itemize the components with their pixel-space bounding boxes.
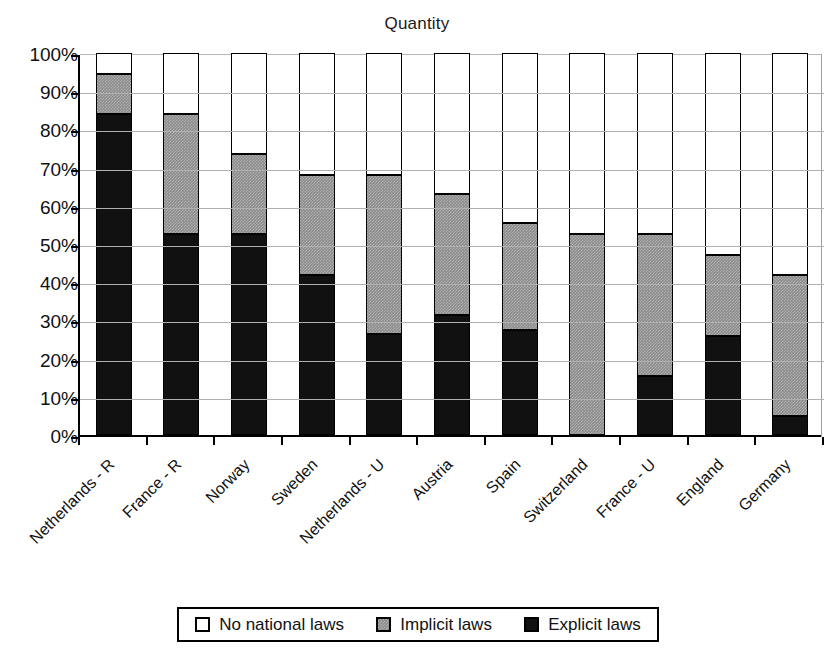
bar-group[interactable] — [231, 53, 267, 435]
y-axis-tick-label: 20% — [10, 351, 78, 370]
plot-area — [78, 55, 822, 437]
gridline — [80, 93, 824, 94]
bar-segment-implicit[interactable] — [366, 175, 402, 334]
bar-segment-none[interactable] — [163, 53, 199, 114]
y-axis-tick-mark — [71, 399, 78, 401]
chart-legend: No national lawsImplicit lawsExplicit la… — [177, 607, 659, 642]
bar-segment-explicit[interactable] — [637, 376, 673, 435]
gridline — [80, 208, 824, 209]
bar-segment-implicit[interactable] — [502, 223, 538, 330]
gridline — [80, 170, 824, 171]
legend-swatch-implicit — [376, 617, 391, 632]
bar-segment-none[interactable] — [96, 53, 132, 74]
bar-group[interactable] — [96, 53, 132, 435]
chart-root: Quantity 100%90%80%70%60%50%40%30%20%10%… — [0, 0, 834, 666]
legend-label: Implicit laws — [400, 615, 492, 635]
legend-swatch-none — [195, 617, 210, 632]
bar-segment-implicit[interactable] — [299, 175, 335, 274]
x-axis-tick-mark — [213, 437, 215, 445]
gridline — [80, 322, 824, 323]
y-axis-tick-label: 30% — [10, 312, 78, 331]
bar-segment-explicit[interactable] — [366, 334, 402, 435]
y-axis-tick-label: 50% — [10, 236, 78, 255]
bar-group[interactable] — [772, 53, 808, 435]
bar-segment-explicit[interactable] — [96, 114, 132, 435]
x-axis-tick-mark — [484, 437, 486, 445]
bar-group[interactable] — [705, 53, 741, 435]
bar-segment-implicit[interactable] — [434, 194, 470, 314]
bar-group[interactable] — [163, 53, 199, 435]
gridline — [80, 131, 824, 132]
x-axis-label: Germany — [640, 456, 794, 610]
bar-segment-none[interactable] — [502, 53, 538, 223]
bar-segment-implicit[interactable] — [569, 234, 605, 435]
x-axis-tick-mark — [349, 437, 351, 445]
bar-segment-explicit[interactable] — [502, 330, 538, 435]
bar-segment-implicit[interactable] — [705, 255, 741, 335]
bars-container — [80, 53, 824, 435]
bar-segment-implicit[interactable] — [637, 234, 673, 375]
bar-segment-none[interactable] — [231, 53, 267, 154]
x-axis-tick-mark — [687, 437, 689, 445]
y-axis-tick-label: 10% — [10, 389, 78, 408]
x-axis-tick-mark — [754, 437, 756, 445]
y-axis-tick-mark — [71, 131, 78, 133]
bar-segment-explicit[interactable] — [772, 416, 808, 435]
legend-label: No national laws — [219, 615, 344, 635]
bar-segment-explicit[interactable] — [434, 315, 470, 435]
y-axis-tick-label: 80% — [10, 121, 78, 140]
x-axis-tick-mark — [146, 437, 148, 445]
bar-segment-explicit[interactable] — [163, 234, 199, 435]
bar-segment-none[interactable] — [705, 53, 741, 255]
y-axis-tick-label: 40% — [10, 274, 78, 293]
y-axis-tick-mark — [71, 322, 78, 324]
legend-item[interactable]: No national laws — [195, 615, 344, 635]
bar-segment-explicit[interactable] — [231, 234, 267, 435]
bar-group[interactable] — [502, 53, 538, 435]
y-axis-tick-mark — [71, 55, 78, 57]
y-axis-tick-mark — [71, 284, 78, 286]
bar-segment-none[interactable] — [434, 53, 470, 194]
bar-segment-none[interactable] — [772, 53, 808, 275]
bar-group[interactable] — [299, 53, 335, 435]
bar-group[interactable] — [434, 53, 470, 435]
gridline — [80, 399, 824, 400]
legend-item[interactable]: Implicit laws — [376, 615, 492, 635]
x-axis-tick-mark — [551, 437, 553, 445]
y-axis-tick-mark — [71, 93, 78, 95]
y-axis: 100%90%80%70%60%50%40%30%20%10%0% — [0, 55, 78, 437]
legend-label: Explicit laws — [548, 615, 641, 635]
x-axis-tick-mark — [416, 437, 418, 445]
y-axis-tick-label: 60% — [10, 198, 78, 217]
y-axis-tick-label: 100% — [10, 45, 78, 64]
y-axis-tick-mark — [71, 170, 78, 172]
x-axis-tick-mark — [619, 437, 621, 445]
x-axis-tick-mark — [281, 437, 283, 445]
gridline — [80, 361, 824, 362]
legend-swatch-explicit — [524, 617, 539, 632]
x-axis-tick-mark — [822, 437, 824, 445]
bar-segment-none[interactable] — [299, 53, 335, 175]
x-axis-tick-mark — [78, 437, 80, 445]
y-axis-tick-label: 70% — [10, 160, 78, 179]
bar-group[interactable] — [366, 53, 402, 435]
y-axis-tick-mark — [71, 437, 78, 439]
legend-item[interactable]: Explicit laws — [524, 615, 641, 635]
bar-segment-none[interactable] — [366, 53, 402, 175]
y-axis-tick-mark — [71, 246, 78, 248]
y-axis-tick-mark — [71, 208, 78, 210]
gridline — [80, 246, 824, 247]
bar-segment-explicit[interactable] — [299, 275, 335, 435]
y-axis-tick-label: 0% — [10, 427, 78, 446]
y-axis-tick-mark — [71, 361, 78, 363]
bar-segment-explicit[interactable] — [705, 336, 741, 435]
bar-group[interactable] — [569, 53, 605, 435]
bar-segment-implicit[interactable] — [772, 275, 808, 416]
bar-segment-implicit[interactable] — [231, 154, 267, 234]
bar-group[interactable] — [637, 53, 673, 435]
gridline — [80, 284, 824, 285]
chart-title: Quantity — [0, 14, 834, 34]
y-axis-tick-label: 90% — [10, 83, 78, 102]
